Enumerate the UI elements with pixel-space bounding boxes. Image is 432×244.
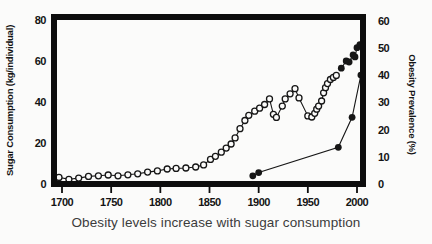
left-axis-tick-labels: 020406080 — [35, 14, 47, 190]
y-tick-label-right: 50 — [378, 42, 390, 54]
y-tick-label-right: 10 — [378, 151, 390, 163]
x-tick-label: 2000 — [346, 196, 369, 208]
data-point-open — [173, 165, 179, 171]
right-axis-tick-labels: 0102030405060 — [378, 15, 390, 190]
data-point-open — [296, 95, 302, 101]
data-point-filled — [255, 169, 262, 176]
data-point-open — [76, 175, 82, 181]
figure-caption: Obesity levels increase with sugar consu… — [0, 215, 432, 230]
y-tick-label-right: 30 — [378, 96, 390, 108]
data-point-open — [237, 126, 243, 132]
right-axis-title: Obesity Prevalence (%) — [407, 35, 418, 175]
data-point-open — [115, 173, 121, 179]
data-point-open — [86, 173, 92, 179]
data-point-open — [145, 169, 151, 175]
y-tick-label-left: 60 — [35, 55, 47, 67]
y-tick-label-left: 0 — [40, 178, 46, 190]
data-point-open — [262, 102, 268, 108]
data-point-open — [273, 114, 279, 120]
x-tick-label: 1850 — [198, 196, 221, 208]
data-point-open — [95, 173, 101, 179]
data-point-open — [232, 135, 238, 141]
data-point-open — [292, 86, 298, 92]
y-tick-label-right: 40 — [378, 69, 390, 81]
x-tick-label: 1900 — [247, 196, 270, 208]
data-point-open — [319, 98, 325, 104]
data-point-filled — [338, 65, 345, 72]
chart-plot: 1700175018001850190019502000020406080010… — [0, 0, 432, 244]
data-point-open — [125, 172, 131, 178]
data-point-open — [105, 172, 111, 178]
x-tick-label: 1750 — [100, 196, 123, 208]
data-point-open — [135, 171, 141, 177]
data-point-open — [212, 153, 218, 159]
x-tick-label: 1700 — [51, 196, 74, 208]
data-point-open — [246, 112, 252, 118]
data-point-open — [154, 168, 160, 174]
x-tick-label: 1800 — [149, 196, 172, 208]
y-tick-label-right: 0 — [378, 178, 384, 190]
data-point-open — [193, 164, 199, 170]
x-axis-ticks: 1700175018001850190019502000 — [51, 187, 369, 208]
data-point-filled — [249, 172, 256, 179]
data-point-filled — [335, 144, 342, 151]
y-tick-label-left: 40 — [35, 96, 47, 108]
data-point-open — [228, 141, 234, 147]
y-tick-label-right: 20 — [378, 124, 390, 136]
series-sugar-consumption-historical — [56, 72, 339, 182]
data-point-filled — [346, 59, 353, 66]
y-tick-label-right: 60 — [378, 15, 390, 27]
data-point-open — [333, 72, 339, 78]
data-point-open — [279, 103, 285, 109]
data-point-filled — [349, 114, 356, 121]
figure: Sugar Consumption (kg/individual) 170017… — [0, 0, 432, 244]
data-point-open — [282, 96, 288, 102]
data-point-filled — [352, 54, 359, 61]
data-point-open — [183, 165, 189, 171]
y-tick-label-left: 20 — [35, 137, 47, 149]
x-tick-label: 1950 — [297, 196, 320, 208]
data-point-open — [201, 162, 207, 168]
data-point-open — [267, 96, 273, 102]
y-tick-label-left: 80 — [35, 14, 47, 26]
data-point-open — [287, 91, 293, 97]
data-point-open — [164, 166, 170, 172]
series-obesity-prevalence — [249, 72, 364, 180]
series-sugar-consumption-recent — [338, 41, 363, 71]
